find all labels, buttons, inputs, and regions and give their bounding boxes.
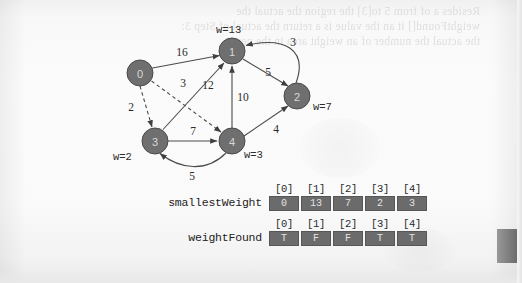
edge-weight-1-2: 5 — [265, 66, 271, 78]
array-cell-col: [3] 2 — [365, 183, 395, 211]
cell-value[interactable]: T — [269, 231, 299, 246]
cell-value[interactable]: 3 — [397, 196, 427, 211]
graph-node-4[interactable]: 4 w=3 — [219, 128, 263, 161]
cell-value[interactable]: T — [397, 231, 427, 246]
cell-value[interactable]: 13 — [301, 196, 331, 211]
graph-diagram: 16 2 3 12 10 5 3 7 5 4 0 1 w=13 2 w=7 — [0, 0, 522, 190]
node-label-3: 3 — [152, 136, 158, 148]
cell-value[interactable]: F — [301, 231, 331, 246]
node-weight-1: w=13 — [216, 24, 241, 36]
array-cells-weight-found: [0] T [1] F [2] F [3] T [4] T — [269, 218, 427, 246]
cell-index: [1] — [307, 183, 325, 195]
node-label-1: 1 — [229, 46, 235, 58]
array-cell-col: [2] 7 — [333, 183, 363, 211]
array-cell-col: [0] 0 — [269, 183, 299, 211]
cell-index: [2] — [339, 218, 357, 230]
array-cells-smallest-weight: [0] 0 [1] 13 [2] 7 [3] 2 [4] 3 — [269, 183, 427, 211]
array-label-weight-found: weightFound — [142, 218, 269, 244]
graph-node-2[interactable]: 2 w=7 — [284, 83, 332, 113]
graph-node-0[interactable]: 0 — [127, 60, 153, 86]
edge-4-2 — [244, 106, 288, 136]
array-weight-found: weightFound [0] T [1] F [2] F [3] T — [0, 218, 522, 246]
array-smallest-weight: smallestWeight [0] 0 [1] 13 [2] 7 [3] 2 — [0, 183, 522, 211]
cell-index: [4] — [403, 218, 421, 230]
edge-weight-4-3: 5 — [189, 170, 195, 182]
cell-value[interactable]: 7 — [333, 196, 363, 211]
page-corner-mark — [497, 229, 517, 263]
page-right-edge — [517, 0, 522, 283]
cell-index: [2] — [339, 183, 357, 195]
page-bottom-shadow — [0, 269, 522, 283]
edge-0-3 — [140, 86, 152, 127]
edge-weight-3-4: 7 — [190, 125, 196, 137]
node-label-4: 4 — [229, 136, 235, 148]
edge-weight-0-4: 3 — [180, 77, 186, 89]
array-cell-col: [4] T — [397, 218, 427, 246]
array-cell-col: [1] F — [301, 218, 331, 246]
edge-weight-labels: 16 2 3 12 10 5 3 7 5 4 — [128, 36, 296, 182]
cell-index: [3] — [371, 183, 389, 195]
edge-weight-3-1: 12 — [202, 79, 214, 91]
node-label-0: 0 — [137, 68, 143, 80]
node-weight-2: w=7 — [313, 101, 332, 113]
array-cell-col: [3] T — [365, 218, 395, 246]
dijkstra-arrays: smallestWeight [0] 0 [1] 13 [2] 7 [3] 2 — [0, 183, 522, 253]
graph-node-1[interactable]: 1 w=13 — [216, 24, 245, 64]
edge-weight-4-2: 4 — [273, 123, 279, 135]
graph-node-3[interactable]: 3 w=2 — [113, 128, 168, 163]
node-weight-3: w=2 — [113, 151, 132, 163]
figure-page: Resides a of from 5 to[3] the region the… — [0, 0, 522, 283]
cell-value[interactable]: 0 — [269, 196, 299, 211]
cell-value[interactable]: T — [365, 231, 395, 246]
cell-index: [0] — [275, 218, 293, 230]
cell-index: [4] — [403, 183, 421, 195]
edge-4-3 — [160, 153, 226, 167]
edge-weight-2-1: 3 — [290, 36, 296, 48]
cell-index: [3] — [371, 218, 389, 230]
array-label-smallest-weight: smallestWeight — [142, 183, 269, 209]
node-weight-4: w=3 — [244, 149, 263, 161]
edge-weight-4-1: 10 — [237, 91, 249, 103]
array-cell-col: [0] T — [269, 218, 299, 246]
edge-weight-0-1: 16 — [176, 46, 188, 58]
array-cell-col: [2] F — [333, 218, 363, 246]
array-cell-col: [1] 13 — [301, 183, 331, 211]
cell-value[interactable]: 2 — [365, 196, 395, 211]
cell-value[interactable]: F — [333, 231, 363, 246]
edge-weight-0-3: 2 — [128, 101, 134, 113]
edge-3-1 — [163, 63, 224, 130]
cell-index: [1] — [307, 218, 325, 230]
cell-index: [0] — [275, 183, 293, 195]
node-label-2: 2 — [294, 91, 300, 103]
array-cell-col: [4] 3 — [397, 183, 427, 211]
